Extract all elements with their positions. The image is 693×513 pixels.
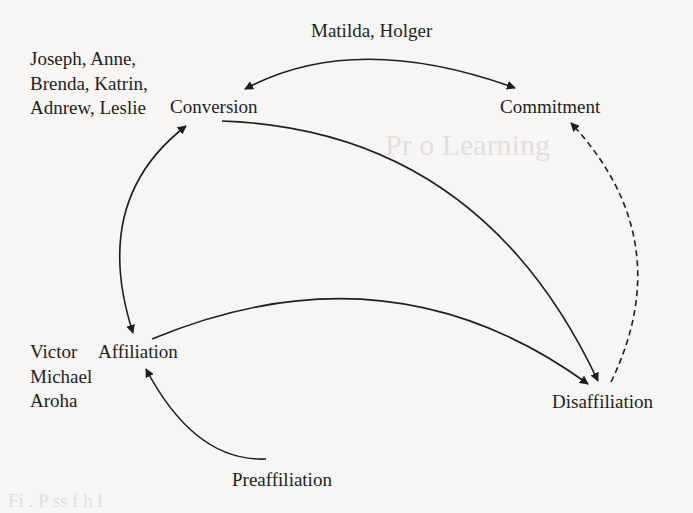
edge-affiliation-conversion: [120, 126, 186, 333]
edge-conversion-disaffiliation: [222, 121, 598, 381]
conversion-group-line-1: Joseph, Anne,: [30, 47, 148, 72]
diagram-canvas: Pr o Learning Fi . P ss f h l Matilda, H…: [0, 0, 693, 513]
top-arc-names-label: Matilda, Holger: [311, 19, 432, 43]
node-affiliation: Affiliation: [98, 340, 178, 364]
affiliation-group-line-2: Michael: [30, 365, 92, 390]
affiliation-group-line-3: Aroha: [30, 389, 92, 414]
conversion-group-line-2: Brenda, Katrin,: [30, 72, 148, 97]
node-conversion: Conversion: [170, 95, 258, 119]
affiliation-group-line-1: Victor: [30, 340, 92, 365]
node-disaffiliation: Disaffiliation: [552, 390, 653, 414]
edge-disaffiliation-commitment-dashed: [571, 123, 638, 382]
node-commitment: Commitment: [500, 95, 600, 119]
edge-affiliation-disaffiliation: [152, 299, 588, 384]
node-preaffiliation: Preaffiliation: [232, 468, 332, 492]
conversion-group-names: Joseph, Anne, Brenda, Katrin, Adnrew, Le…: [30, 47, 148, 121]
edge-preaffiliation-affiliation: [146, 369, 266, 459]
edge-conversion-commitment: [245, 59, 515, 89]
affiliation-group-names: Victor Michael Aroha: [30, 340, 92, 414]
conversion-group-line-3: Adnrew, Leslie: [30, 96, 148, 121]
